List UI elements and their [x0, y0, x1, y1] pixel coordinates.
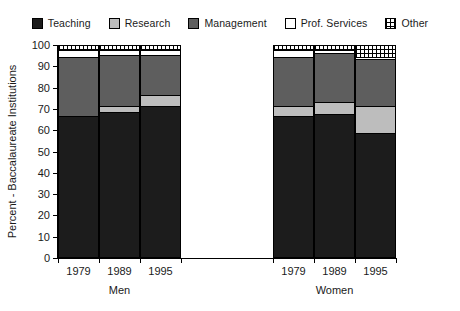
legend-swatch-icon — [32, 18, 43, 29]
stacked-bar[interactable] — [355, 45, 396, 258]
x-group-label: Men — [109, 285, 130, 296]
stacked-bar[interactable] — [99, 45, 140, 258]
bar-segment-teaching[interactable] — [140, 107, 181, 258]
bar-segment-other[interactable] — [355, 45, 396, 58]
x-tick-mark — [58, 258, 59, 263]
bar-segment-prof-services[interactable] — [273, 51, 314, 57]
x-tick-label: 1989 — [107, 266, 131, 277]
bar-segment-other[interactable] — [314, 45, 355, 51]
legend-swatch-icon — [385, 18, 396, 29]
legend-label: Prof. Services — [301, 18, 368, 29]
stacked-bar[interactable] — [140, 45, 181, 258]
plot-area: 0102030405060708090100 197919891995Men19… — [57, 45, 396, 259]
chart-legend: TeachingResearchManagementProf. Services… — [0, 13, 460, 33]
bar-segment-management[interactable] — [99, 56, 140, 107]
bar-segment-other[interactable] — [140, 45, 181, 51]
x-tick-mark — [273, 258, 274, 263]
y-axis-title: Percent - Baccalaureate Institutions — [6, 45, 20, 258]
legend-swatch-icon — [109, 18, 120, 29]
bar-segment-prof-services[interactable] — [314, 51, 355, 53]
bar-segment-prof-services[interactable] — [355, 58, 396, 60]
y-tick-label: 10 — [38, 231, 50, 242]
y-tick-label: 20 — [38, 210, 50, 221]
y-tick-label: 80 — [38, 82, 50, 93]
x-tick-label: 1995 — [363, 266, 387, 277]
legend-label: Research — [125, 18, 171, 29]
bar-segment-other[interactable] — [58, 45, 99, 51]
bar-segment-teaching[interactable] — [273, 117, 314, 258]
legend-item-other[interactable]: Other — [385, 18, 428, 29]
x-tick-mark — [99, 258, 100, 263]
x-tick-label: 1989 — [322, 266, 346, 277]
stacked-bar[interactable] — [314, 45, 355, 258]
bar-segment-prof-services[interactable] — [140, 51, 181, 55]
bar-segment-teaching[interactable] — [314, 115, 355, 258]
bar-segment-research[interactable] — [355, 107, 396, 135]
bar-segment-management[interactable] — [314, 54, 355, 103]
legend-item-prof-services[interactable]: Prof. Services — [285, 18, 368, 29]
bar-segment-teaching[interactable] — [355, 134, 396, 258]
x-tick-mark — [314, 258, 315, 263]
bar-segment-other[interactable] — [273, 45, 314, 51]
y-tick-label: 70 — [38, 103, 50, 114]
bar-segment-research[interactable] — [140, 96, 181, 107]
bar-segment-other[interactable] — [99, 45, 140, 51]
y-tick-label: 50 — [38, 146, 50, 157]
y-tick-label: 30 — [38, 189, 50, 200]
bar-segment-teaching[interactable] — [99, 113, 140, 258]
legend-label: Teaching — [48, 18, 91, 29]
bar-segment-research[interactable] — [99, 107, 140, 113]
legend-label: Other — [401, 18, 428, 29]
x-tick-mark — [181, 258, 182, 263]
y-tick-label: 0 — [44, 253, 50, 264]
y-tick-label: 60 — [38, 125, 50, 136]
legend-item-research[interactable]: Research — [109, 18, 171, 29]
legend-swatch-icon — [188, 18, 199, 29]
x-tick-mark — [355, 258, 356, 263]
legend-item-management[interactable]: Management — [188, 18, 266, 29]
stacked-bar[interactable] — [58, 45, 99, 258]
legend-swatch-icon — [285, 18, 296, 29]
legend-item-teaching[interactable]: Teaching — [32, 18, 91, 29]
bar-segment-management[interactable] — [355, 60, 396, 107]
x-tick-mark — [396, 258, 397, 263]
legend-label: Management — [204, 18, 266, 29]
x-group-label: Women — [316, 285, 354, 296]
y-tick-label: 100 — [32, 40, 50, 51]
x-tick-label: 1979 — [66, 266, 90, 277]
bar-segment-management[interactable] — [273, 58, 314, 107]
stacked-bar[interactable] — [273, 45, 314, 258]
y-tick-label: 40 — [38, 167, 50, 178]
y-axis-title-text: Percent - Baccalaureate Institutions — [8, 65, 19, 239]
bar-segment-research[interactable] — [314, 103, 355, 116]
x-tick-mark — [140, 258, 141, 263]
bar-segment-research[interactable] — [273, 107, 314, 118]
x-tick-label: 1995 — [148, 266, 172, 277]
bar-segment-management[interactable] — [140, 56, 181, 96]
bar-segment-prof-services[interactable] — [58, 51, 99, 57]
bar-segment-teaching[interactable] — [58, 117, 99, 258]
bar-segment-management[interactable] — [58, 58, 99, 118]
bar-segment-prof-services[interactable] — [99, 51, 140, 55]
y-tick-label: 90 — [38, 61, 50, 72]
x-tick-label: 1979 — [281, 266, 305, 277]
